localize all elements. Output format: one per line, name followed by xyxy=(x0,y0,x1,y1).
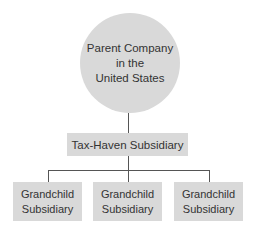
grandchild-3-label-line-1: Grandchild xyxy=(182,187,235,202)
grandchild-1-label-line-2: Subsidiary xyxy=(21,202,74,217)
grandchild-3-label-line-2: Subsidiary xyxy=(182,202,235,217)
parent-company-node: Parent Company in the United States xyxy=(80,13,180,113)
grandchild-2-label-line-2: Subsidiary xyxy=(101,202,154,217)
grandchild-subsidiary-node-1: Grandchild Subsidiary xyxy=(13,182,82,221)
tax-haven-subsidiary-label: Tax-Haven Subsidiary xyxy=(72,139,184,151)
grandchild-2-label-line-1: Grandchild xyxy=(101,187,154,202)
grandchild-1-label-line-1: Grandchild xyxy=(21,187,74,202)
tax-haven-subsidiary-node: Tax-Haven Subsidiary xyxy=(67,133,188,156)
parent-label-line-3: United States xyxy=(87,71,173,86)
parent-label-line-1: Parent Company xyxy=(87,41,173,56)
grandchild-subsidiary-node-2: Grandchild Subsidiary xyxy=(93,182,162,221)
connector-to-grandchild-1 xyxy=(48,170,49,182)
connector-subsidiary-down xyxy=(128,156,129,182)
connector-horizontal-bar xyxy=(48,170,210,171)
connector-parent-to-subsidiary xyxy=(128,113,129,133)
connector-to-grandchild-3 xyxy=(209,170,210,182)
parent-company-label: Parent Company in the United States xyxy=(87,41,173,86)
grandchild-subsidiary-node-3: Grandchild Subsidiary xyxy=(174,182,243,221)
parent-label-line-2: in the xyxy=(87,56,173,71)
